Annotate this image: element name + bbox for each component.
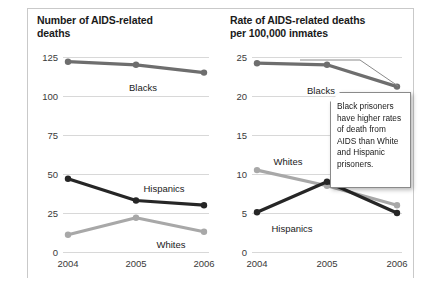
right-series-label-whites: Whites — [273, 156, 302, 167]
right-ytick-15: 15 — [236, 130, 247, 141]
left-ytick-100: 100 — [42, 91, 58, 102]
left-point-blacks-2006 — [201, 69, 207, 75]
left-point-whites-2006 — [201, 229, 207, 235]
chart-panel-left: Number of AIDS-related deaths 125 100 75… — [27, 0, 217, 285]
left-point-hispanics-2004 — [65, 176, 71, 182]
left-series-label-blacks: Blacks — [129, 82, 157, 93]
left-point-whites-2005 — [133, 215, 139, 221]
right-chart-title: Rate of AIDS-related deaths per 100,000 … — [230, 14, 415, 40]
left-gridline-0: 0 — [63, 252, 209, 253]
right-point-blacks-2004 — [254, 60, 260, 66]
left-point-hispanics-2005 — [133, 197, 139, 203]
right-ytick-10: 10 — [236, 169, 247, 180]
left-xtick-2006: 2006 — [193, 258, 214, 269]
right-xtick-2006: 2006 — [386, 258, 407, 269]
left-ytick-75: 75 — [47, 130, 58, 141]
bottom-bleed-strip — [0, 278, 439, 285]
right-point-hispanics-2006 — [394, 210, 400, 216]
right-series-label-hispanics: Hispanics — [271, 223, 312, 234]
left-series-label-hispanics: Hispanics — [143, 183, 184, 194]
left-xtick-2005: 2005 — [125, 258, 146, 269]
left-ytick-25: 25 — [47, 208, 58, 219]
right-point-whites-2006 — [394, 202, 400, 208]
left-point-hispanics-2006 — [201, 202, 207, 208]
left-ytick-125: 125 — [42, 52, 58, 63]
left-plot-area: 125 100 75 50 25 0 — [63, 57, 209, 252]
right-point-hispanics-2004 — [254, 209, 260, 215]
left-point-blacks-2004 — [65, 59, 71, 65]
right-gridline-0: 0 — [252, 252, 402, 253]
right-ytick-25: 25 — [236, 52, 247, 63]
figure-container: Number of AIDS-related deaths 125 100 75… — [0, 0, 439, 285]
right-point-whites-2004 — [254, 167, 260, 173]
left-ytick-0: 0 — [53, 247, 58, 258]
right-xtick-2005: 2005 — [316, 258, 337, 269]
left-series-label-whites: Whites — [156, 239, 185, 250]
right-ytick-5: 5 — [242, 208, 247, 219]
callout-box: Black prisoners have higher rates of dea… — [330, 92, 409, 186]
callout-text: Black prisoners have higher rates of dea… — [337, 101, 404, 171]
right-ytick-20: 20 — [236, 91, 247, 102]
left-point-blacks-2005 — [133, 62, 139, 68]
right-xtick-2004: 2004 — [246, 258, 267, 269]
left-chart-title: Number of AIDS-related deaths — [37, 14, 212, 40]
left-xtick-2004: 2004 — [57, 258, 78, 269]
left-ytick-50: 50 — [47, 169, 58, 180]
left-point-whites-2004 — [65, 232, 71, 238]
right-ytick-0: 0 — [242, 247, 247, 258]
